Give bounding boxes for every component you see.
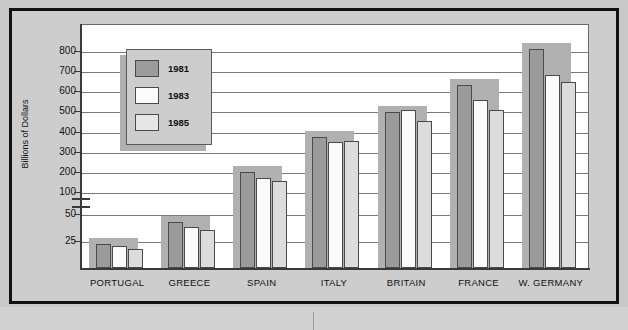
bar-group — [299, 25, 371, 268]
bar-italy-1985 — [344, 141, 359, 268]
bar-italy-1983 — [328, 142, 343, 268]
chart-outer-frame: 2550100200300400500600700800 Billions of… — [9, 8, 619, 304]
x-axis-label-britain: BRITAIN — [370, 277, 442, 288]
page-below-frame — [0, 307, 628, 330]
y-axis-tick — [74, 172, 81, 173]
x-axis-label-portugal: PORTUGAL — [81, 277, 153, 288]
y-axis-break-mark-1 — [72, 198, 90, 200]
legend-swatch-1981 — [135, 60, 159, 77]
x-axis-category-labels: PORTUGALGREECESPAINITALYBRITAINFRANCEW. … — [81, 277, 589, 297]
legend-label-1983: 1983 — [168, 90, 189, 101]
bar-wgermany-1983 — [545, 75, 560, 268]
legend-swatch-1985 — [135, 114, 159, 131]
bar-wgermany-1985 — [561, 82, 576, 268]
bar-france-1981 — [457, 85, 472, 268]
y-axis-tick — [74, 132, 81, 133]
bar-group — [227, 25, 299, 268]
bar-greece-1981 — [168, 222, 183, 268]
y-axis-tick — [74, 192, 81, 193]
legend-swatch-1983 — [135, 87, 159, 104]
legend-label-1981: 1981 — [168, 63, 189, 74]
bar-italy-1981 — [312, 137, 327, 268]
bar-wgermany-1981 — [529, 49, 544, 268]
y-axis-tick — [74, 71, 81, 72]
y-axis-title: Billions of Dollars — [20, 79, 30, 189]
y-axis-break-mark-2 — [72, 206, 90, 208]
legend: 198119831985 — [126, 49, 212, 145]
bar-france-1985 — [489, 110, 504, 268]
x-axis-label-spain: SPAIN — [226, 277, 298, 288]
chart-title-clipped — [0, 0, 628, 7]
y-axis-tick — [74, 51, 81, 52]
chart-page: 2550100200300400500600700800 Billions of… — [0, 0, 628, 330]
bar-britain-1983 — [401, 110, 416, 268]
page-seam — [313, 312, 314, 330]
bar-group — [443, 25, 515, 268]
x-axis-label-france: FRANCE — [442, 277, 514, 288]
bar-britain-1985 — [417, 121, 432, 269]
x-axis-label-italy: ITALY — [298, 277, 370, 288]
bar-group — [371, 25, 443, 268]
bar-portugal-1983 — [112, 246, 127, 268]
bar-spain-1983 — [256, 178, 271, 268]
bar-spain-1985 — [272, 181, 287, 268]
bar-greece-1983 — [184, 227, 199, 268]
y-axis-tick — [74, 152, 81, 153]
bar-britain-1981 — [385, 112, 400, 268]
legend-item-1983: 1983 — [135, 87, 205, 107]
legend-label-1985: 1985 — [168, 117, 189, 128]
bar-group — [516, 25, 588, 268]
legend-item-1985: 1985 — [135, 114, 205, 134]
y-axis-tick — [74, 111, 81, 112]
x-axis-label-greece: GREECE — [153, 277, 225, 288]
legend-item-1981: 1981 — [135, 60, 205, 80]
bar-portugal-1981 — [96, 244, 111, 268]
x-axis-line — [80, 268, 590, 270]
x-axis-label-wgermany: W. GERMANY — [515, 277, 587, 288]
y-axis-tick — [74, 91, 81, 92]
bar-portugal-1985 — [128, 249, 143, 268]
bar-spain-1981 — [240, 172, 255, 268]
bar-france-1983 — [473, 100, 488, 268]
y-axis-tick — [74, 214, 81, 215]
bar-greece-1985 — [200, 230, 215, 268]
y-axis-tick — [74, 241, 81, 242]
